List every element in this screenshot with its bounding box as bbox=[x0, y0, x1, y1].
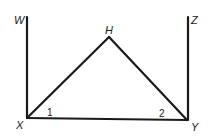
label-z: Z bbox=[190, 14, 199, 26]
segment-xh bbox=[27, 37, 109, 118]
label-y: Y bbox=[191, 121, 199, 133]
label-x: X bbox=[15, 119, 24, 131]
label-h: H bbox=[105, 24, 113, 36]
angle-label-2: 2 bbox=[159, 108, 165, 119]
label-w: W bbox=[14, 14, 26, 26]
segment-hy bbox=[109, 37, 187, 120]
angle-label-1: 1 bbox=[47, 107, 53, 118]
geometry-diagram: W Z H X Y 1 2 bbox=[0, 0, 211, 137]
